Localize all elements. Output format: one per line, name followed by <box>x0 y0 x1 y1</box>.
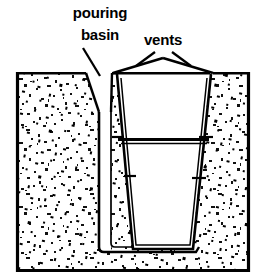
vents-label: vents <box>144 31 182 48</box>
cavity-parting-line <box>118 140 209 144</box>
vent-right-channel <box>163 58 213 73</box>
diagram-labels: pouring basin vents <box>73 4 182 48</box>
vent-channels <box>113 58 213 73</box>
diagram-canvas: pouring basin vents <box>0 0 259 280</box>
pouring-basin-label-line2: basin <box>81 26 119 43</box>
cavity-outer-profile <box>117 74 211 249</box>
mold-cross-section-diagram: pouring basin vents <box>0 0 259 280</box>
cavity-inner-profile <box>121 78 207 245</box>
pouring-basin-label-line1: pouring <box>73 4 127 21</box>
pouring-basin-leader-line <box>83 48 100 76</box>
pouring-basin-right-slope <box>111 73 112 112</box>
